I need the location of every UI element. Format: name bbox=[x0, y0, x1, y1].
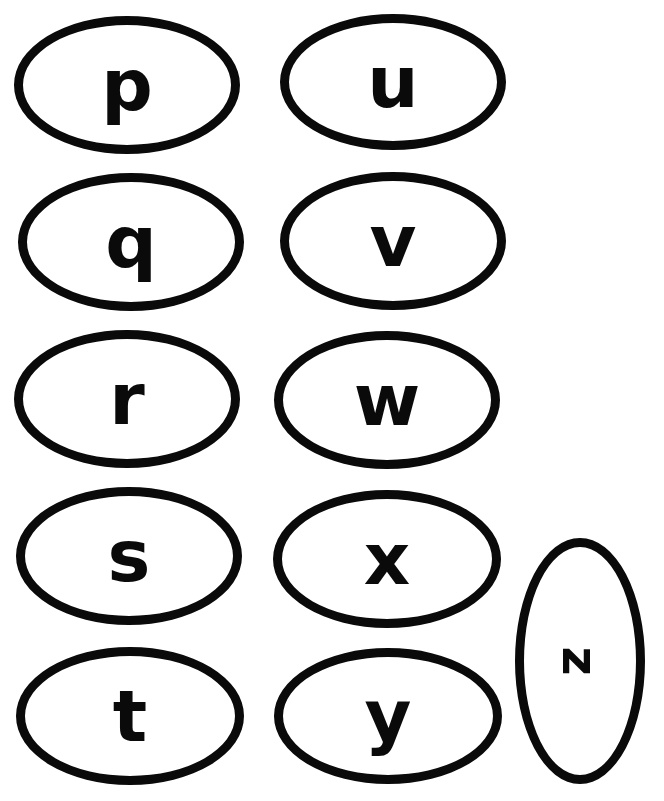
letter-oval-s: s bbox=[16, 487, 242, 625]
letter-r: r bbox=[109, 363, 145, 435]
letter-oval-r: r bbox=[14, 330, 240, 468]
letter-u: u bbox=[367, 46, 418, 118]
letter-s: s bbox=[108, 520, 151, 592]
letter-oval-q: q bbox=[18, 173, 244, 311]
letter-v: v bbox=[370, 205, 417, 277]
letter-t: t bbox=[113, 680, 147, 752]
letter-oval-z: z bbox=[515, 538, 645, 784]
letter-oval-x: x bbox=[273, 490, 501, 628]
letter-x: x bbox=[364, 523, 410, 595]
letter-y: y bbox=[365, 680, 412, 752]
letter-oval-t: t bbox=[16, 647, 244, 785]
letter-z: z bbox=[555, 646, 605, 675]
letter-oval-p: p bbox=[14, 16, 240, 154]
letter-oval-w: w bbox=[274, 331, 500, 469]
letter-p: p bbox=[101, 49, 153, 121]
letter-q: q bbox=[105, 206, 157, 278]
letter-oval-v: v bbox=[280, 172, 506, 310]
letter-oval-y: y bbox=[274, 648, 502, 784]
letter-w: w bbox=[354, 364, 421, 436]
letter-oval-u: u bbox=[280, 14, 506, 150]
